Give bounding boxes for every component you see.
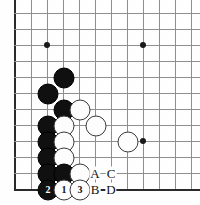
grid-line-horizontal-3 <box>14 61 200 62</box>
grid-line-horizontal-1 <box>14 29 200 30</box>
grid-line-horizontal-4 <box>14 77 200 78</box>
point-label-d: D <box>105 183 116 196</box>
stone-white-9 <box>118 132 139 153</box>
figure-caption <box>0 197 200 205</box>
star-point-2 <box>140 138 146 144</box>
point-label-c: C <box>106 167 117 180</box>
stone-black-1 <box>38 84 59 105</box>
point-label-a: A <box>89 167 100 180</box>
star-point-1 <box>140 42 146 48</box>
stone-black-0 <box>54 68 75 89</box>
grid-line-horizontal-6 <box>14 109 200 110</box>
move-number-2: 2 <box>46 185 51 195</box>
move-number-1: 1 <box>62 185 67 195</box>
grid-line-horizontal-2 <box>14 45 200 46</box>
go-board-diagram: 213 ACBD <box>0 0 200 205</box>
star-point-0 <box>44 42 50 48</box>
move-number-3: 3 <box>78 185 83 195</box>
stone-white-3 <box>70 100 91 121</box>
grid-line-horizontal-0 <box>14 13 200 14</box>
stone-white-6 <box>86 116 107 137</box>
point-label-b: B <box>90 183 101 196</box>
